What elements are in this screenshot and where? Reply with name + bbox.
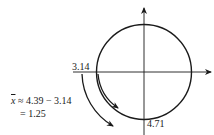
label-4-71: 4.71 xyxy=(147,119,165,129)
unit-circle-diagram: 3.14 4.71 x ≈ 4.39 − 3.14 = 1.25 xyxy=(0,0,214,135)
equation-line-1: x ≈ 4.39 − 3.14 xyxy=(11,96,72,106)
label-3-14: 3.14 xyxy=(72,62,90,72)
equation-line-2: = 1.25 xyxy=(20,109,46,119)
equation-line-1-text: ≈ 4.39 − 3.14 xyxy=(15,95,71,106)
